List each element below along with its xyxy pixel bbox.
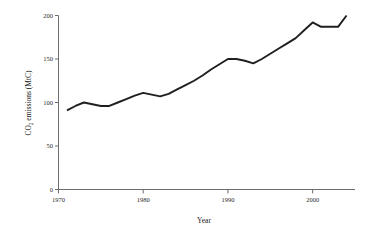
y-axis-title-rest-text: emissions (MtC) — [24, 70, 33, 123]
y-axis-title-main-text: CO — [24, 125, 33, 136]
y-tick-label: 200 — [43, 12, 53, 19]
co2-emissions-line — [67, 16, 347, 111]
x-axis: 1970198019902000 — [52, 190, 355, 203]
y-axis-title-text: CO2 emissions (MtC) — [24, 70, 34, 136]
line-chart-plot: 050100150200 1970198019902000 Year CO2 e… — [0, 0, 373, 241]
y-tick-label: 0 — [50, 186, 53, 193]
y-tick-label: 150 — [43, 55, 53, 62]
y-tick-label: 100 — [43, 99, 53, 106]
y-axis: 050100150200 — [43, 12, 58, 193]
x-axis-title: Year — [197, 216, 211, 225]
x-tick-label: 1990 — [221, 196, 234, 203]
data-series-group — [67, 16, 347, 111]
x-tick-label: 2000 — [306, 196, 319, 203]
x-tick-label: 1980 — [137, 196, 150, 203]
chart-figure: 050100150200 1970198019902000 Year CO2 e… — [0, 0, 373, 241]
x-tick-label: 1970 — [52, 196, 65, 203]
y-axis-title: CO2 emissions (MtC) — [24, 70, 34, 136]
y-tick-label: 50 — [47, 142, 54, 149]
x-axis-ticks: 1970198019902000 — [52, 190, 319, 203]
y-axis-ticks: 050100150200 — [43, 12, 58, 193]
